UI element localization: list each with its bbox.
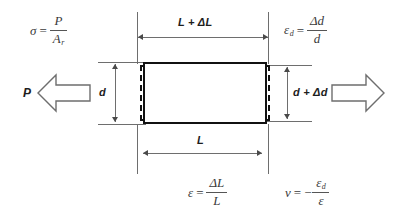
formula-poisson-ratio-fraction: εd ε [312,176,329,209]
formula-diameter-strain: εd = Δd d [284,14,327,47]
arrowhead-deformed-length-left [138,34,143,40]
formula-diameter-strain-lhs-subscript: d [290,29,294,38]
arrowhead-deformed-length-right [263,34,268,40]
arrowhead-deformed-diameter-bottom [284,114,290,119]
formula-stress-numerator: P [52,14,66,29]
dimension-line-original-diameter [115,64,116,122]
extension-line-top-right [268,12,269,64]
extension-line-right-bottom [264,121,312,122]
arrowhead-original-diameter-bottom [112,117,118,122]
formula-axial-strain-denominator: L [210,194,223,209]
formula-poisson-ratio: ν = − εd ε [285,176,329,209]
block-arrow-left-icon [36,72,92,118]
formula-poisson-ratio-numerator-base: ε [316,175,321,190]
dimension-label-deformed-length: L + ΔL [178,16,212,28]
formula-diameter-strain-equals: = [297,24,304,37]
dimension-line-deformed-diameter [287,67,288,119]
formula-axial-strain-fraction: ΔL L [206,176,227,209]
arrowhead-original-length-left [143,150,148,156]
formula-stress-equals: = [39,24,46,37]
dimension-label-original-length: L [197,134,204,146]
formula-axial-strain-equals: = [196,186,203,199]
formula-axial-strain-lhs: ε [188,186,193,199]
dimension-label-original-diameter: d [99,86,106,98]
specimen-deformed-outline [143,62,267,124]
formula-stress-denominator: Ar [50,32,68,47]
formula-stress-lhs: σ [30,24,36,37]
arrowhead-original-length-right [257,150,262,156]
formula-diameter-strain-denominator: d [311,32,324,47]
formula-poisson-ratio-denominator: ε [315,194,326,209]
block-arrow-right-icon [330,72,386,118]
formula-poisson-ratio-numerator-subscript: d [322,182,326,191]
formula-stress-fraction: P Ar [50,14,68,47]
formula-stress-denominator-base: A [53,31,61,46]
formula-diameter-strain-lhs-base: ε [284,22,289,37]
formula-axial-strain: ε = ΔL L [188,176,227,209]
formula-diameter-strain-fraction: Δd d [307,14,327,47]
extension-line-left-top [98,62,146,63]
formula-poisson-ratio-lhs: ν [285,186,291,199]
extension-line-left-bottom [98,124,146,125]
formula-poisson-ratio-sign: − [304,186,311,199]
formula-diameter-strain-lhs: εd [284,23,294,38]
formula-poisson-ratio-numerator: εd [313,176,329,191]
arrowhead-original-diameter-top [112,64,118,69]
formula-diameter-strain-numerator: Δd [307,14,327,29]
dimension-line-original-length [143,153,262,154]
extension-line-right-top [264,65,312,66]
dimension-label-deformed-diameter: d + Δd [293,86,328,98]
stress-strain-diagram: σ = P Ar εd = Δd d ε = ΔL L ν = − εd [0,0,398,214]
load-label-left: P [23,86,31,100]
extension-line-bottom-right [268,124,269,174]
formula-stress-denominator-subscript: r [61,38,64,47]
dimension-line-deformed-length [138,37,268,38]
formula-stress: σ = P Ar [30,14,67,47]
extension-line-bottom-left [137,124,138,174]
arrowhead-deformed-diameter-top [284,67,290,72]
formula-poisson-ratio-equals: = [294,186,301,199]
formula-axial-strain-numerator: ΔL [206,176,227,191]
